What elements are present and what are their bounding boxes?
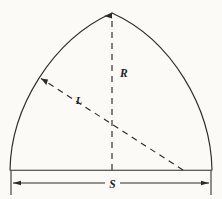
arch-diagram-figure: R L S <box>0 0 222 199</box>
arch-curve-right <box>112 13 212 170</box>
arch-diagram-canvas: R L S <box>0 0 222 199</box>
span-label: S <box>109 178 115 190</box>
radius-label: L <box>75 95 82 106</box>
rise-label: R <box>119 67 128 79</box>
